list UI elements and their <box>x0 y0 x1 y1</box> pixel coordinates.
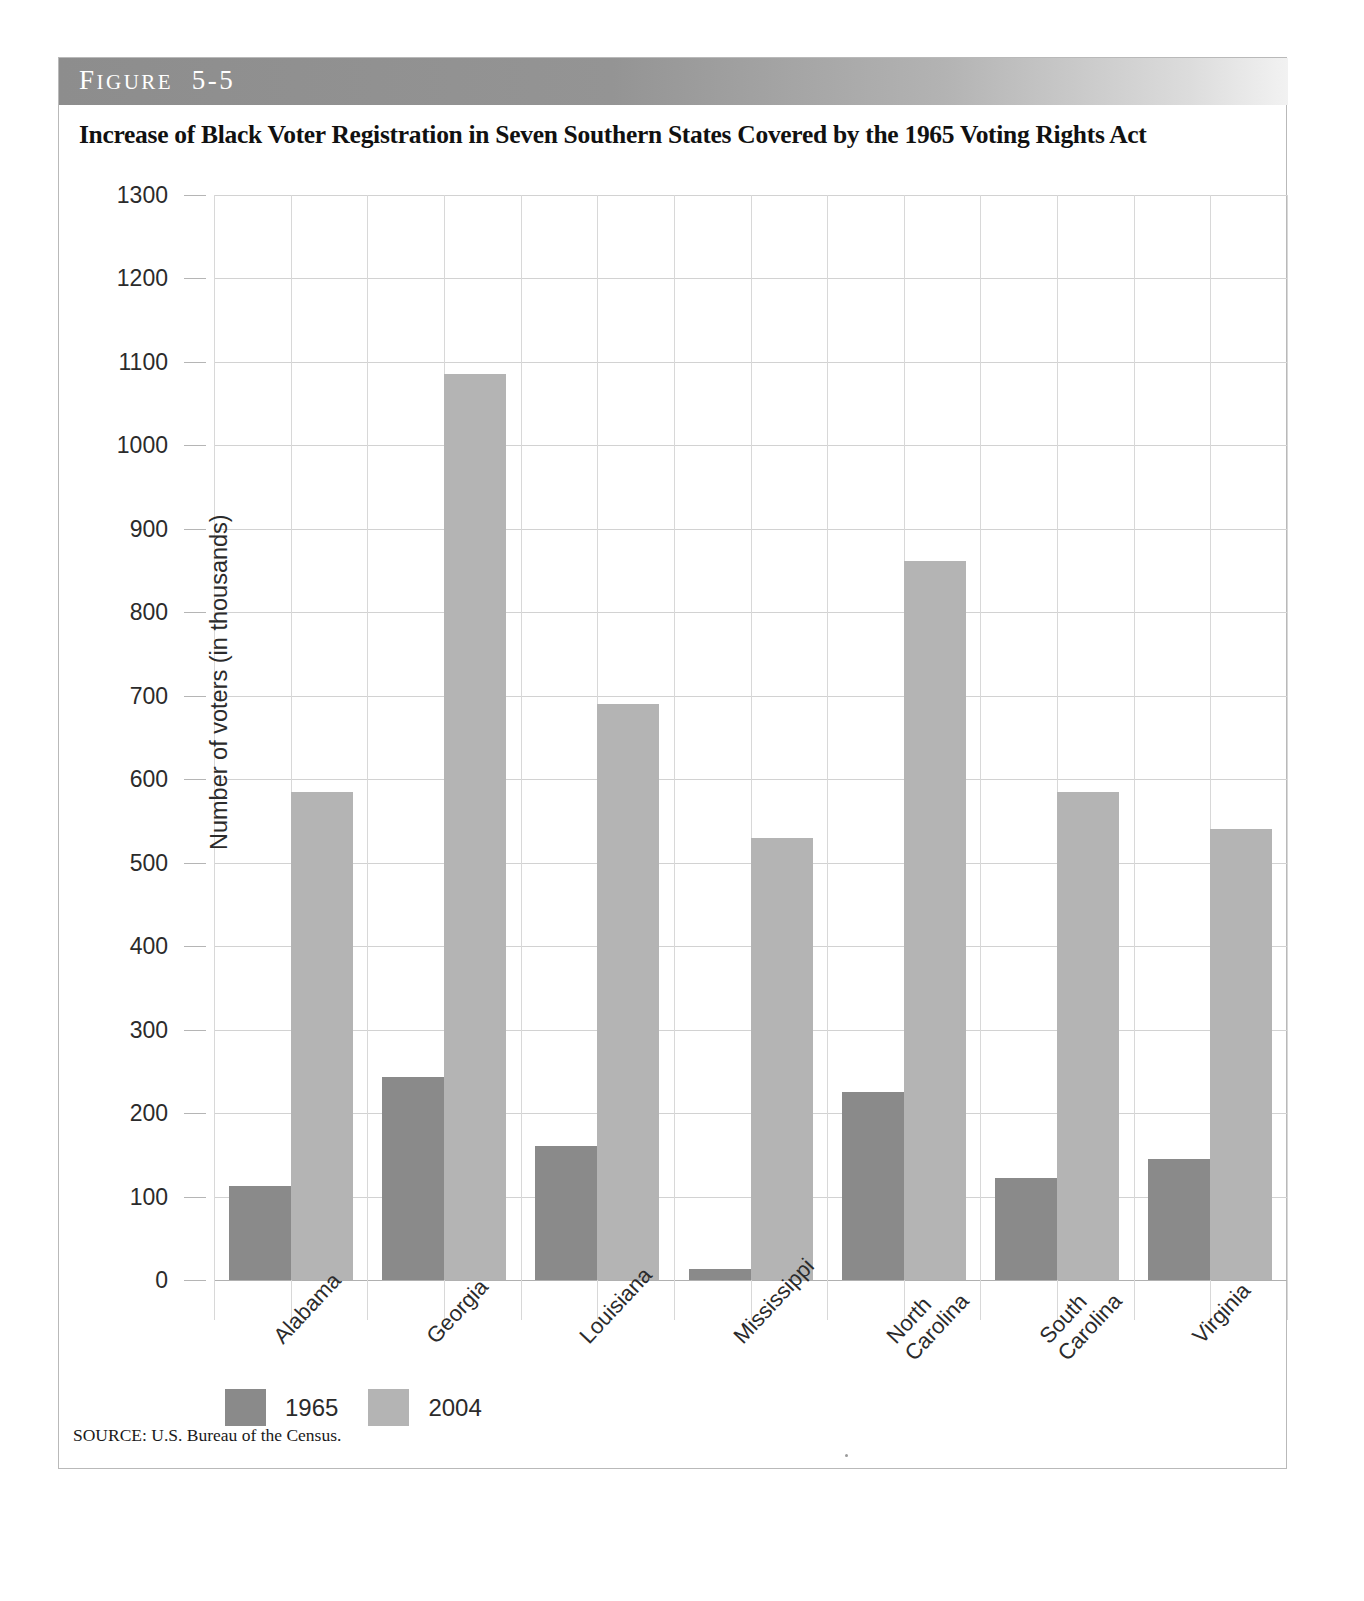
plot-wrapper: 0100200300400500600700800900100011001200… <box>59 58 1288 1470</box>
y-tick-mark-200 <box>184 1113 206 1114</box>
legend-swatch-1965 <box>225 1389 266 1426</box>
bar-mississippi-2004 <box>751 838 813 1280</box>
y-tick-label-1200: 1200 <box>82 265 168 292</box>
bar-south-carolina-2004 <box>1057 792 1119 1280</box>
plot-area: 0100200300400500600700800900100011001200… <box>214 195 1287 1280</box>
vertical-gridline-7 <box>1287 195 1288 1320</box>
x-tick-label-georgia: Georgia <box>422 1275 493 1349</box>
legend-swatch-2004 <box>368 1389 409 1426</box>
y-tick-mark-500 <box>184 863 206 864</box>
bar-virginia-2004 <box>1210 829 1272 1280</box>
figure-container: FIGURE 5-5 Increase of Black Voter Regis… <box>58 57 1287 1469</box>
y-tick-mark-1000 <box>184 445 206 446</box>
y-tick-label-400: 400 <box>82 933 168 960</box>
vertical-gridline-6 <box>1134 195 1135 1320</box>
legend-item-2004[interactable]: 2004 <box>368 1389 481 1426</box>
stray-speck <box>845 1454 848 1457</box>
bar-mississippi-1965 <box>689 1269 751 1280</box>
x-tick-label-north-carolina: NorthCarolina <box>882 1272 974 1366</box>
y-tick-mark-300 <box>184 1030 206 1031</box>
chart-legend: 19652004 <box>225 1389 482 1426</box>
y-tick-label-1300: 1300 <box>82 182 168 209</box>
y-tick-label-0: 0 <box>82 1267 168 1294</box>
bar-louisiana-1965 <box>535 1146 597 1280</box>
y-tick-mark-1100 <box>184 362 206 363</box>
y-tick-mark-400 <box>184 946 206 947</box>
y-tick-mark-0 <box>184 1280 206 1281</box>
y-tick-mark-100 <box>184 1197 206 1198</box>
legend-label-1965: 1965 <box>285 1394 338 1422</box>
bar-louisiana-2004 <box>597 704 659 1280</box>
y-tick-label-700: 700 <box>82 683 168 710</box>
y-tick-mark-800 <box>184 612 206 613</box>
y-tick-label-1000: 1000 <box>82 432 168 459</box>
y-tick-label-600: 600 <box>82 766 168 793</box>
y-tick-label-800: 800 <box>82 599 168 626</box>
y-tick-label-500: 500 <box>82 850 168 877</box>
vertical-gridline-3 <box>674 195 675 1320</box>
y-tick-mark-1300 <box>184 195 206 196</box>
bar-south-carolina-1965 <box>995 1178 1057 1280</box>
y-tick-mark-700 <box>184 696 206 697</box>
vertical-gridline-5 <box>980 195 981 1320</box>
bar-virginia-1965 <box>1148 1159 1210 1280</box>
vertical-gridline-2 <box>521 195 522 1320</box>
vertical-gridline-1 <box>367 195 368 1320</box>
bar-alabama-1965 <box>229 1186 291 1280</box>
x-tick-label-virginia: Virginia <box>1188 1279 1256 1349</box>
y-tick-mark-1200 <box>184 278 206 279</box>
bar-alabama-2004 <box>291 792 353 1280</box>
y-axis-title: Number of voters (in thousands) <box>206 514 233 850</box>
y-tick-mark-600 <box>184 779 206 780</box>
y-tick-label-1100: 1100 <box>82 349 168 376</box>
y-tick-label-200: 200 <box>82 1100 168 1127</box>
source-note: SOURCE: U.S. Bureau of the Census. <box>73 1425 341 1446</box>
y-tick-label-900: 900 <box>82 516 168 543</box>
bar-north-carolina-2004 <box>904 561 966 1280</box>
x-tick-label-south-carolina: SouthCarolina <box>1035 1272 1127 1366</box>
bar-north-carolina-1965 <box>842 1092 904 1280</box>
y-tick-label-100: 100 <box>82 1184 168 1211</box>
vertical-gridline-4 <box>827 195 828 1320</box>
bar-georgia-2004 <box>444 374 506 1280</box>
y-tick-mark-900 <box>184 529 206 530</box>
legend-item-1965[interactable]: 1965 <box>225 1389 338 1426</box>
y-tick-label-300: 300 <box>82 1017 168 1044</box>
bar-georgia-1965 <box>382 1077 444 1280</box>
legend-label-2004: 2004 <box>428 1394 481 1422</box>
